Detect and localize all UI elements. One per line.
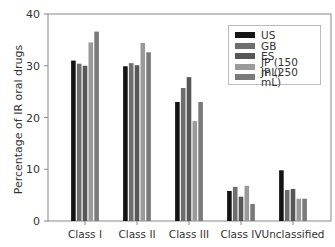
bar [285, 190, 290, 221]
bar [94, 32, 99, 221]
bar [187, 77, 192, 221]
bar [135, 65, 140, 221]
x-tick-label: Class IV [220, 228, 262, 240]
y-tick-label: 20 [26, 112, 40, 125]
legend-swatch [235, 32, 255, 38]
bar [233, 187, 238, 221]
legend-item: US [235, 30, 320, 41]
bar [302, 199, 307, 221]
y-tick-label: 10 [26, 163, 40, 176]
y-axis: 010203040 [26, 8, 48, 228]
bar [181, 88, 186, 221]
bar [193, 121, 198, 221]
bar [250, 204, 255, 221]
x-tick-label: Class II [118, 228, 155, 240]
bar [245, 186, 250, 221]
bar [89, 42, 94, 221]
legend-swatch [235, 53, 255, 59]
legend-item: JP (250 mL) [235, 72, 320, 83]
x-tick-label: Class III [169, 228, 209, 240]
bar [146, 52, 151, 221]
bar [77, 64, 82, 221]
bar [239, 197, 244, 221]
bar [175, 102, 180, 221]
bar [123, 66, 128, 221]
bar [297, 199, 302, 221]
x-tick-label: Unclassified [261, 228, 324, 240]
legend-label: JP (250 mL) [261, 67, 320, 87]
legend-label: GB [261, 41, 276, 51]
bar [227, 191, 232, 221]
bar [71, 61, 76, 221]
bar [141, 43, 146, 221]
x-tick-label: Class I [68, 228, 102, 240]
y-tick-label: 40 [26, 8, 40, 21]
legend-swatch [235, 74, 255, 80]
legend-item: GB [235, 41, 320, 52]
x-axis: Class IClass IIClass IIIClass IVUnclassi… [68, 221, 325, 240]
bar [129, 63, 134, 221]
bar [291, 189, 296, 221]
y-tick-label: 0 [33, 215, 40, 228]
bar [83, 66, 88, 221]
legend-swatch [235, 64, 255, 70]
y-tick-label: 30 [26, 60, 40, 73]
bar [198, 102, 203, 221]
legend-swatch [235, 43, 255, 49]
legend-label: US [261, 30, 275, 40]
bar [279, 170, 284, 221]
legend: USGBESJP (150 mL)JP (250 mL) [228, 25, 321, 85]
y-axis-label: Percentage of IR oral drugs [12, 40, 25, 200]
